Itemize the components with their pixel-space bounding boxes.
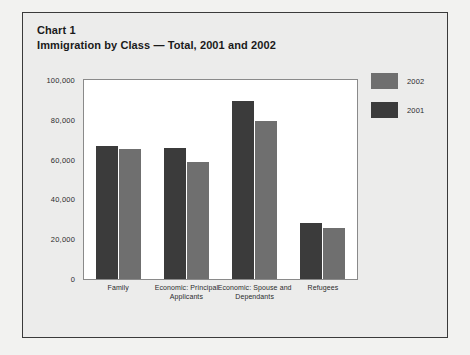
y-axis-tick-label: 60,000 [51,155,75,164]
x-axis: FamilyEconomic: Principal ApplicantsEcon… [84,283,357,323]
chart-frame: Chart 1 Immigration by Class — Total, 20… [22,12,448,338]
chart-number-label: Chart 1 [37,23,367,37]
chart-title: Immigration by Class — Total, 2001 and 2… [37,38,367,52]
scanned-page-background: Chart 1 Immigration by Class — Total, 20… [0,0,470,355]
bar-2001[interactable] [300,223,322,279]
legend-label: 2002 [407,77,425,86]
bar-group [96,80,141,279]
chart-legend: 20022001 [371,73,445,131]
legend-swatch-icon [371,102,398,118]
legend-item-2001[interactable]: 2001 [371,102,445,118]
y-axis-tick-label: 80,000 [51,115,75,124]
bar-group [300,80,345,279]
bar-2001[interactable] [96,146,118,279]
y-axis: 020,00040,00060,00080,000100,000 [23,73,79,284]
bar-2002[interactable] [255,121,277,279]
y-axis-tick-label: 40,000 [51,195,75,204]
bar-2001[interactable] [164,148,186,279]
bar-group [232,80,277,279]
bar-2002[interactable] [119,149,141,279]
chart-title-block: Chart 1 Immigration by Class — Total, 20… [37,23,367,52]
bar-group [164,80,209,279]
y-axis-tick-label: 100,000 [46,76,75,85]
bar-2001[interactable] [232,101,254,279]
legend-swatch-icon [371,73,398,89]
y-axis-tick-label: 20,000 [51,235,75,244]
y-axis-tick-label: 0 [71,275,75,284]
bars-layer [84,80,357,279]
legend-item-2002[interactable]: 2002 [371,73,445,89]
bar-2002[interactable] [323,228,345,279]
legend-label: 2001 [407,106,425,115]
bar-2002[interactable] [187,162,209,279]
x-axis-tick-label: Refugees [283,283,363,292]
